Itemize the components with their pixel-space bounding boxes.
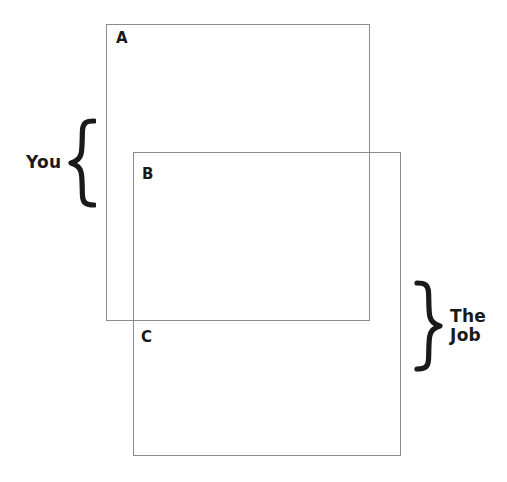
region-label-b: B: [142, 167, 154, 182]
brace-label-the-job: The Job: [450, 307, 486, 345]
rectangle-the-job: [133, 152, 401, 456]
region-label-c: C: [141, 330, 152, 345]
region-label-a: A: [116, 31, 128, 46]
left-curly-brace-icon: [62, 118, 96, 208]
diagram-canvas: A B C You The Job: [0, 0, 507, 482]
brace-group-the-job: The Job: [414, 280, 486, 372]
right-curly-brace-icon: [414, 280, 444, 372]
brace-label-you: You: [26, 153, 61, 173]
brace-group-you: You: [26, 118, 96, 208]
